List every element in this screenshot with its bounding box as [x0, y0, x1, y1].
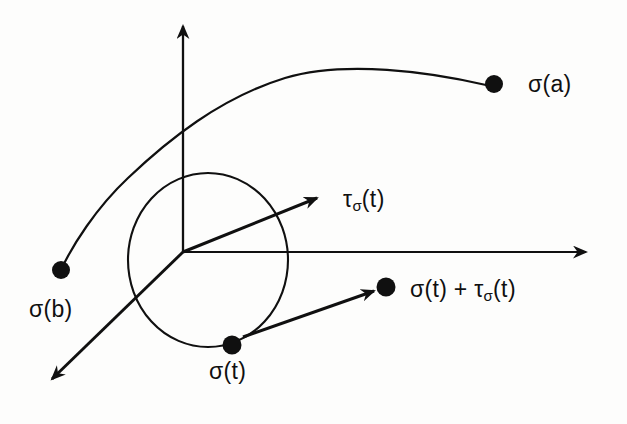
sum-argument: (t): [493, 276, 516, 302]
sigma-a-point: [485, 75, 503, 93]
curve-path-icon: [61, 69, 486, 270]
sigma-t-label: σ(t): [209, 360, 246, 383]
diagram-canvas: [0, 0, 627, 424]
sigma-b-point: [52, 261, 70, 279]
sum-subscript-sigma: σ: [484, 287, 493, 304]
circle-outline-icon: [128, 173, 288, 347]
tau-argument: (t): [362, 186, 385, 212]
sigma-a-label: σ(a): [528, 73, 572, 96]
sigma-t-point: [223, 336, 242, 355]
translated-vector-arrow-icon: [243, 291, 374, 337]
tangent-vector-arrow-icon: [183, 198, 317, 252]
tau-sigma-t-label: τσ(t): [343, 188, 385, 213]
tau-glyph: τ: [343, 186, 352, 212]
sigma-t-plus-tau-label: σ(t) + τσ(t): [410, 278, 516, 303]
sigma-b-label: σ(b): [29, 298, 73, 321]
sum-first-term: σ(t) + τ: [410, 276, 484, 302]
sum-point: [377, 278, 396, 297]
tangent-vector-diagram: σ(a) σ(b) σ(t) τσ(t) σ(t) + τσ(t): [0, 0, 627, 424]
tau-subscript-sigma: σ: [352, 197, 361, 214]
